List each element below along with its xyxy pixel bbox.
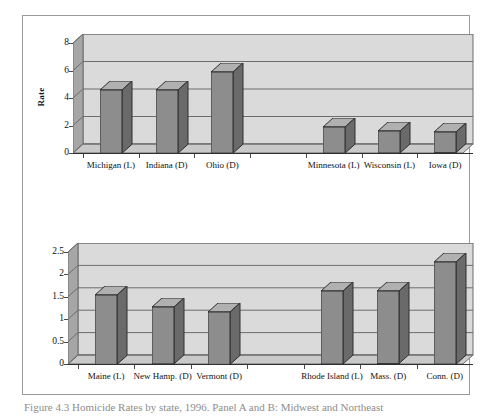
y-axis-tick-mark (69, 71, 73, 72)
bar (152, 307, 184, 366)
y-axis-tick-mark (64, 297, 68, 298)
y-axis-tick-label: 0 (23, 359, 64, 369)
bar (95, 295, 127, 366)
x-axis-category-label: Vermont (D) (196, 371, 242, 381)
x-axis-category-label: Rhode Island (L) (301, 371, 362, 381)
bar-chart-northeast: 00.511.522.5Maine (L)New Hamp. (D)Vermon… (23, 221, 471, 393)
plot-3d-shell (68, 243, 481, 372)
x-axis-line (68, 364, 473, 365)
y-axis-tick-label: 0.5 (23, 337, 64, 347)
y-axis-tick-label: 8 (23, 38, 69, 48)
x-axis-tick-mark (362, 154, 363, 158)
x-axis-tick-mark (306, 154, 307, 158)
y-axis-tick-mark (69, 43, 73, 44)
x-axis-tick-mark (360, 365, 361, 369)
bar (321, 291, 353, 366)
bar (323, 127, 355, 155)
x-axis-tick-mark (191, 365, 192, 369)
bar (208, 312, 240, 366)
bar (377, 291, 409, 366)
x-axis-category-label: Mass. (D) (370, 371, 406, 381)
x-axis-tick-mark (83, 154, 84, 158)
y-axis-tick-mark (69, 98, 73, 99)
bar (211, 72, 243, 155)
bar (100, 90, 132, 155)
x-axis-category-label: Ohio (D) (206, 160, 239, 170)
x-axis-tick-mark (304, 365, 305, 369)
y-axis-tick-mark (64, 342, 68, 343)
y-axis-tick-label: 4 (23, 93, 69, 103)
x-axis-tick-mark (247, 365, 248, 369)
bar (156, 90, 188, 155)
y-axis-tick-label: 1 (23, 314, 64, 324)
x-axis-tick-mark (194, 154, 195, 158)
y-axis-tick-mark (69, 126, 73, 127)
plot-3d-shell (73, 34, 481, 161)
x-axis-tick-mark (139, 154, 140, 158)
x-axis-category-label: Wisconsin (L) (364, 160, 415, 170)
x-axis-category-label: Conn. (D) (427, 371, 464, 381)
bar-chart-midwest: 02468RateMichigan (L)Indiana (D)Ohio (D)… (23, 24, 471, 194)
figure-frame: 02468RateMichigan (L)Indiana (D)Ohio (D)… (22, 15, 470, 395)
x-axis-category-label: Michigan (L) (87, 160, 135, 170)
figure-caption: Figure 4.3 Homicide Rates by state, 1996… (24, 401, 472, 415)
y-axis-title: Rate (36, 77, 46, 117)
y-axis-tick-label: 2.5 (23, 247, 64, 257)
y-axis-tick-label: 6 (23, 66, 69, 76)
y-axis-tick-label: 1.5 (23, 292, 64, 302)
bar (434, 262, 466, 366)
x-axis-tick-mark (134, 365, 135, 369)
y-axis-tick-label: 2 (23, 269, 64, 279)
x-axis-line (73, 153, 473, 154)
y-axis-tick-mark (64, 274, 68, 275)
y-axis-tick-mark (64, 252, 68, 253)
x-axis-tick-mark (417, 154, 418, 158)
bar (434, 132, 466, 155)
x-axis-category-label: Indiana (D) (146, 160, 188, 170)
bar (378, 131, 410, 155)
x-axis-category-label: Iowa (D) (429, 160, 462, 170)
x-axis-category-label: Maine (L) (88, 371, 125, 381)
x-axis-tick-mark (417, 365, 418, 369)
x-axis-category-label: New Hamp. (D) (134, 371, 192, 381)
x-axis-tick-mark (250, 154, 251, 158)
y-axis-tick-label: 0 (23, 148, 69, 158)
y-axis-tick-label: 2 (23, 121, 69, 131)
y-axis-tick-mark (64, 319, 68, 320)
x-axis-tick-mark (78, 365, 79, 369)
x-axis-category-label: Minnesota (L) (308, 160, 360, 170)
